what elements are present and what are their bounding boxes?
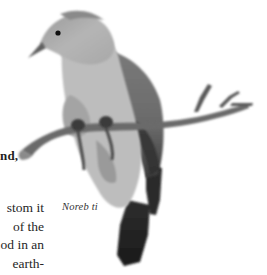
heading-fragment: nd,: [0, 148, 18, 163]
body-line: of the: [0, 218, 44, 237]
eye: [55, 30, 60, 35]
body-line: od in an: [0, 236, 44, 255]
beak: [28, 42, 46, 58]
book-page: nd, stom it of the od in an earth- Noreb…: [0, 0, 267, 275]
body-line: earth-: [0, 255, 44, 274]
head: [40, 11, 114, 65]
body-line: stom it: [0, 199, 44, 218]
body-paragraph: stom it of the od in an earth-: [0, 199, 44, 273]
illustration-caption: Noreb ti: [62, 201, 98, 212]
